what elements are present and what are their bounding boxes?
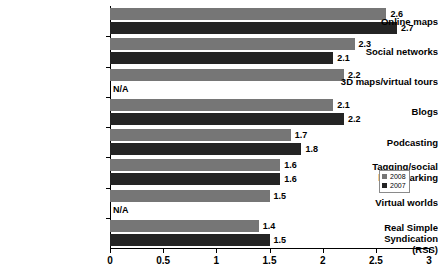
chart-legend: 2008 2007	[379, 170, 410, 193]
bar-2008	[110, 220, 259, 232]
x-axis-tick-label: 1.5	[263, 255, 277, 266]
legend-item-2008: 2008	[382, 172, 406, 181]
bar-2008	[110, 190, 270, 202]
y-axis-category-label: Podcasting	[332, 137, 438, 148]
y-axis-category-label: Virtual worlds	[332, 197, 438, 208]
y-axis-category-label: Social networks	[332, 46, 438, 57]
bar-na-label: N/A	[113, 204, 129, 216]
bar-value-label: 1.5	[274, 190, 287, 202]
x-axis-tick-label: 3	[426, 255, 432, 266]
x-axis-tick-label: 1	[214, 255, 220, 266]
bar-value-label: 1.6	[284, 173, 297, 185]
bar-2007	[110, 173, 280, 185]
bar-value-label: 1.5	[274, 234, 287, 246]
bar-value-label: 1.4	[263, 220, 276, 232]
legend-swatch-icon-2007	[382, 183, 387, 188]
y-axis-tick	[106, 127, 110, 128]
x-axis-tick	[429, 248, 430, 253]
x-axis-tick-label: 0	[107, 255, 113, 266]
x-axis-tick-label: 2	[320, 255, 326, 266]
y-axis-tick	[106, 157, 110, 158]
legend-swatch-icon-2008	[382, 174, 387, 179]
plot-area: 2.62.72.32.12.2N/A2.12.21.71.81.61.61.5N…	[110, 6, 429, 248]
x-axis-tick	[270, 248, 271, 253]
y-axis-category-label: 3D maps/virtual tours	[332, 76, 438, 87]
bar-value-label: 1.8	[305, 143, 318, 155]
bar-value-label: 1.7	[295, 129, 308, 141]
x-axis-tick	[216, 248, 217, 253]
bar-2007	[110, 143, 301, 155]
bar-na-label: N/A	[113, 83, 129, 95]
bar-2008	[110, 159, 280, 171]
legend-label-2007: 2007	[390, 181, 406, 190]
y-axis-tick	[106, 67, 110, 68]
bar-2007	[110, 113, 344, 125]
y-axis-tick	[106, 218, 110, 219]
y-axis-category-label: Online maps	[332, 16, 438, 27]
x-axis-tick	[376, 248, 377, 253]
x-axis-tick	[163, 248, 164, 253]
bar-value-label: 1.6	[284, 159, 297, 171]
x-axis-tick	[110, 248, 111, 253]
x-axis-tick-label: 2.5	[369, 255, 383, 266]
bar-chart: 2.62.72.32.12.2N/A2.12.21.71.81.61.61.5N…	[0, 0, 438, 276]
bar-2007	[110, 52, 333, 64]
x-axis-tick-label: 0.5	[156, 255, 170, 266]
bar-2008	[110, 38, 355, 50]
y-axis-category-label: Blogs	[332, 106, 438, 117]
bar-2007	[110, 234, 270, 246]
bar-2008	[110, 129, 291, 141]
y-axis-tick	[106, 97, 110, 98]
bar-2008	[110, 69, 344, 81]
legend-label-2008: 2008	[390, 172, 406, 181]
y-axis-tick	[106, 36, 110, 37]
y-axis-category-label: Real Simple Syndication(RSS)	[332, 222, 438, 255]
legend-item-2007: 2007	[382, 181, 406, 190]
bar-2008	[110, 99, 333, 111]
x-axis-tick	[323, 248, 324, 253]
y-axis-tick	[106, 188, 110, 189]
